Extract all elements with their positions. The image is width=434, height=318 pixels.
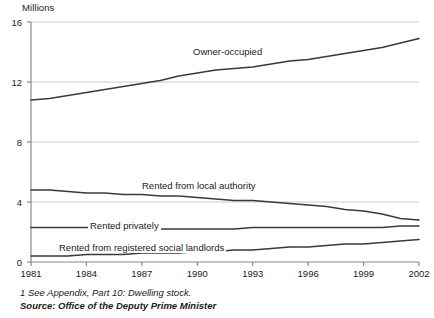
series-label-rented-from-local-authority: Rented from local authority	[140, 180, 258, 191]
x-axis-tick-label: 1981	[11, 268, 51, 279]
y-axis-tick-label: 12	[2, 77, 22, 88]
series-label-owner-occupied: Owner-occupied	[191, 46, 264, 57]
x-axis-tick-label: 1984	[66, 268, 106, 279]
x-axis-tick-label: 2002	[399, 268, 434, 279]
y-axis-tick-label: 16	[2, 17, 22, 28]
series-label-rented-privately: Rented privately	[88, 220, 161, 231]
x-axis-tick-label: 1999	[344, 268, 384, 279]
y-axis-tick-label: 8	[2, 137, 22, 148]
x-axis-tick-label: 1996	[288, 268, 328, 279]
y-axis-tick-label: 0	[2, 257, 22, 268]
chart-container: Millions 0481216 19811984198719901993199…	[0, 0, 434, 318]
footnote-source: Source: Office of the Deputy Prime Minis…	[20, 300, 216, 311]
x-axis-tick-label: 1987	[122, 268, 162, 279]
y-axis-tick-label: 4	[2, 197, 22, 208]
series-label-rented-from-registered-social-landlords: Rented from registered social landlords	[57, 242, 226, 253]
x-axis-tick-label: 1990	[177, 268, 217, 279]
x-axis-tick-label: 1993	[233, 268, 273, 279]
footnote-appendix: 1 See Appendix, Part 10: Dwelling stock.	[20, 287, 191, 298]
